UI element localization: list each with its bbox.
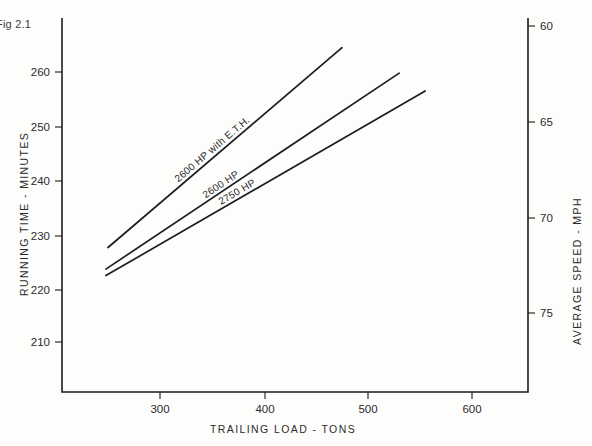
y-axis-right-title: AVERAGE SPEED - MPH xyxy=(571,191,583,351)
axis-frame xyxy=(62,18,528,392)
y-axis-left-ticks xyxy=(55,72,62,342)
series-line-2600hp xyxy=(106,73,399,269)
line-chart: 260 250 240 230 220 210 60 65 70 75 xyxy=(0,0,592,446)
y2-tick-label: 70 xyxy=(540,212,553,224)
y2-tick-label: 60 xyxy=(540,20,553,32)
y-tick-label: 240 xyxy=(31,175,50,187)
y2-tick-label: 65 xyxy=(540,116,553,128)
x-axis-ticks xyxy=(160,392,472,399)
x-tick-label: 600 xyxy=(462,403,481,415)
y-tick-label: 210 xyxy=(31,336,50,348)
x-axis-title: TRAILING LOAD - TONS xyxy=(210,423,356,435)
y2-tick-label: 75 xyxy=(540,307,553,319)
y-tick-label: 250 xyxy=(31,121,50,133)
series-line-2750hp xyxy=(106,91,425,276)
series-line-2600hp-eth xyxy=(108,48,342,248)
x-tick-label: 400 xyxy=(255,403,274,415)
series-labels-group: 2600 HP with E.T.H. 2600 HP 2750 HP xyxy=(172,114,257,207)
y-tick-label: 220 xyxy=(31,284,50,296)
y-axis-left-title: RUNNING TIME - MINUTES xyxy=(18,136,30,296)
x-axis-labels: 300 400 500 600 xyxy=(150,403,481,415)
x-tick-label: 500 xyxy=(358,403,377,415)
x-tick-label: 300 xyxy=(150,403,169,415)
data-series-group xyxy=(106,48,425,276)
chart-axes xyxy=(62,18,528,392)
figure-container: Fig 2.1 260 250 240 230 220 210 xyxy=(0,0,592,446)
y-axis-right-labels: 60 65 70 75 xyxy=(540,20,553,319)
y-axis-left-labels: 260 250 240 230 220 210 xyxy=(31,66,50,348)
series-label-2600hp-eth: 2600 HP with E.T.H. xyxy=(172,114,251,184)
y-axis-right-ticks xyxy=(528,26,535,313)
y-tick-label: 260 xyxy=(31,66,50,78)
y-tick-label: 230 xyxy=(31,230,50,242)
